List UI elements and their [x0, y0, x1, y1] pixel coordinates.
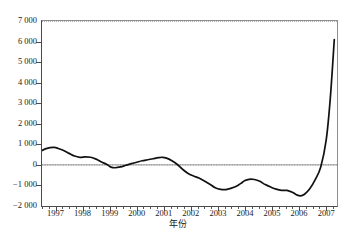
x-tick-minor-mark — [279, 207, 280, 209]
x-tick-minor-mark — [171, 207, 172, 209]
x-tick-minor-mark — [306, 207, 307, 209]
x-tick-minor-mark — [259, 207, 260, 209]
y-tick-label: −1 000 — [13, 180, 37, 189]
x-tick-label: 2005 — [258, 209, 286, 218]
x-tick-label: 1998 — [69, 209, 97, 218]
x-tick-minor-mark — [123, 207, 124, 209]
x-tick-minor-mark — [204, 207, 205, 209]
x-tick-label: 2003 — [204, 209, 232, 218]
x-tick-minor-mark — [225, 207, 226, 209]
x-tick-minor-mark — [116, 207, 117, 209]
figure-caption — [0, 239, 355, 250]
x-tick-label: 2002 — [177, 209, 205, 218]
x-tick-label: 2001 — [150, 209, 178, 218]
x-tick-minor-mark — [184, 207, 185, 209]
y-tick-label: 4 000 — [18, 78, 37, 87]
x-tick-minor-mark — [89, 207, 90, 209]
plot-area — [41, 20, 338, 207]
x-axis-title: 年份 — [0, 219, 355, 230]
x-tick-minor-mark — [143, 207, 144, 209]
y-tick-label: −2 000 — [13, 201, 37, 210]
y-tick-label: 1 000 — [18, 139, 37, 148]
y-tick-label: 2 000 — [18, 119, 37, 128]
x-tick-minor-mark — [265, 207, 266, 209]
line-chart-svg — [42, 21, 337, 206]
y-tick-label: 7 000 — [18, 16, 37, 25]
x-tick-minor-mark — [157, 207, 158, 209]
x-tick-minor-mark — [252, 207, 253, 209]
x-tick-label: 2004 — [231, 209, 259, 218]
x-tick-label: 2007 — [312, 209, 340, 218]
y-tick-label: 3 000 — [18, 98, 37, 107]
y-tick-label: 6 000 — [18, 37, 37, 46]
series-line-series-1 — [42, 40, 334, 196]
x-tick-minor-mark — [103, 207, 104, 209]
x-tick-label: 1999 — [96, 209, 124, 218]
x-tick-minor-mark — [49, 207, 50, 209]
x-tick-minor-mark — [76, 207, 77, 209]
x-tick-minor-mark — [198, 207, 199, 209]
x-tick-label: 2000 — [123, 209, 151, 218]
x-tick-minor-mark — [292, 207, 293, 209]
x-tick-minor-mark — [231, 207, 232, 209]
x-tick-minor-mark — [286, 207, 287, 209]
x-tick-minor-mark — [69, 207, 70, 209]
x-tick-minor-mark — [313, 207, 314, 209]
x-tick-minor-mark — [96, 207, 97, 209]
figure-container: 7 0006 0005 0004 0003 0002 0001 0000−1 0… — [0, 0, 355, 250]
y-tick-label: 5 000 — [18, 57, 37, 66]
x-tick-minor-mark — [319, 207, 320, 209]
x-tick-minor-mark — [211, 207, 212, 209]
x-tick-minor-mark — [130, 207, 131, 209]
x-tick-minor-mark — [238, 207, 239, 209]
x-tick-label: 1997 — [42, 209, 70, 218]
x-tick-minor-mark — [177, 207, 178, 209]
x-tick-minor-mark — [333, 207, 334, 209]
x-tick-minor-mark — [42, 207, 43, 209]
x-tick-minor-mark — [62, 207, 63, 209]
x-tick-minor-mark — [150, 207, 151, 209]
x-tick-label: 2006 — [285, 209, 313, 218]
